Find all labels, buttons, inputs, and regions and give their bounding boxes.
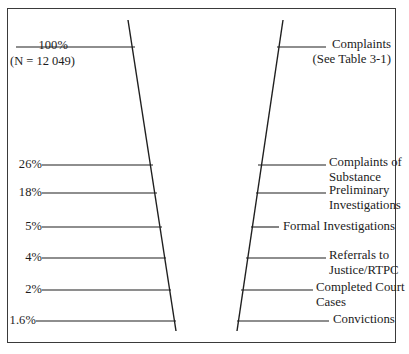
stage-label-substance-line2: Substance xyxy=(329,170,402,185)
stage-label-referrals-line1: Referrals to xyxy=(329,248,389,262)
left-tick-label-2: 2% xyxy=(0,282,42,296)
left-tick-label-1-6: 1.6% xyxy=(0,313,36,327)
stage-label-referrals: Referrals to Justice/RTPC xyxy=(329,248,399,277)
left-tick-label-26: 26% xyxy=(0,157,42,171)
funnel-figure: 100% (N = 12 049) 26% 18% 5% 4% 2% 1.6% … xyxy=(0,0,409,354)
funnel-right-edge xyxy=(237,20,283,331)
stage-label-completed-court-cases: Completed Court Cases xyxy=(316,280,405,309)
base-n-note: (N = 12 049) xyxy=(10,54,75,68)
stage-label-preliminary-line2: Investigations xyxy=(329,198,401,213)
left-tick-label-18: 18% xyxy=(0,185,42,199)
left-tick-label-4: 4% xyxy=(0,250,42,264)
stage-label-formal-investigations: Formal Investigations xyxy=(283,219,395,234)
stage-label-complaints-of-substance: Complaints of Substance xyxy=(329,155,402,184)
left-tick-label-100: 100% xyxy=(10,38,68,52)
stage-label-convictions: Convictions xyxy=(333,312,395,327)
stage-label-referrals-line2: Justice/RTPC xyxy=(329,263,399,278)
stage-label-preliminary-investigations: Preliminary Investigations xyxy=(329,183,401,212)
stage-label-court-line1: Completed Court xyxy=(316,280,405,294)
stage-label-preliminary-line1: Preliminary xyxy=(329,183,389,197)
left-tick-label-5: 5% xyxy=(0,219,42,233)
stage-label-substance-line1: Complaints of xyxy=(329,155,402,169)
stage-label-complaints: Complaints (See Table 3-1) xyxy=(226,37,391,66)
stage-label-complaints-line2: (See Table 3-1) xyxy=(226,52,391,67)
stage-label-court-line2: Cases xyxy=(316,295,405,310)
funnel-left-edge xyxy=(128,20,176,331)
stage-label-complaints-line1: Complaints xyxy=(332,37,391,51)
